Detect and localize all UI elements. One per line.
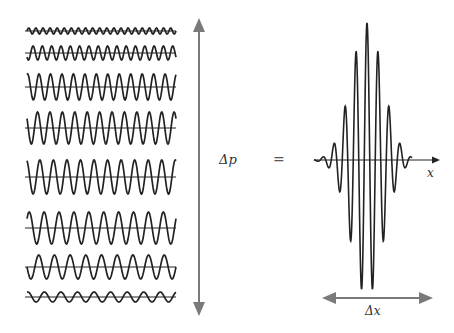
plane-wave-components [25, 28, 176, 302]
position-spread-arrow [322, 292, 433, 304]
delta-p-label: Δp [219, 153, 237, 166]
momentum-spread-arrow [193, 18, 205, 316]
delta-x-label: Δx [365, 305, 380, 317]
arrow-up-head-icon [193, 18, 205, 32]
x-axis-arrowhead-icon [432, 157, 440, 164]
x-axis-label: x [427, 167, 434, 179]
arrow-down-head-icon [193, 302, 205, 316]
arrow-right-head-icon [419, 292, 433, 304]
wave-packet [314, 23, 440, 289]
arrow-left-head-icon [322, 292, 336, 304]
packet-curve [314, 23, 412, 289]
equals-sign: = [273, 152, 285, 166]
